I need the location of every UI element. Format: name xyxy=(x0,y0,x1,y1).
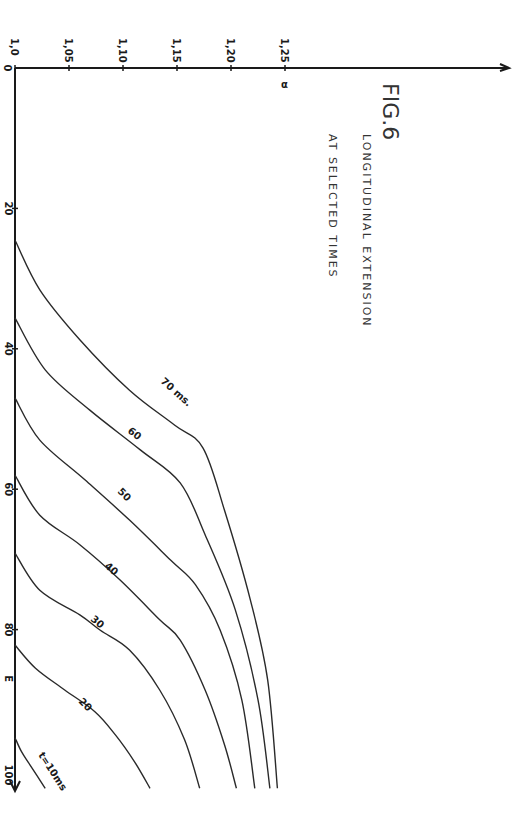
curve-label: 70 ms. xyxy=(159,375,194,408)
e-tick-label: 0 xyxy=(2,65,13,72)
e-tick-label: 60 xyxy=(3,482,14,496)
alpha-tick-label: 1,05 xyxy=(63,38,74,63)
curve-60-ms xyxy=(15,318,270,788)
alpha-tick-label: 1,25 xyxy=(279,38,290,63)
e-axis-label: E xyxy=(3,675,14,682)
figure-subtitle-line: LONGITUDINAL EXTENSION xyxy=(360,134,373,328)
e-tick-label: 80 xyxy=(3,623,14,637)
e-tick-label: 20 xyxy=(3,201,14,215)
e-tick-label: 40 xyxy=(3,342,14,356)
curves xyxy=(15,240,277,788)
curve-label: 30 xyxy=(89,613,107,630)
curve-70-ms xyxy=(15,240,277,788)
alpha-tick-label: 1,20 xyxy=(225,38,236,63)
curve-labels: t=10ms203040506070 ms. xyxy=(36,375,194,792)
curve-label: t=10ms xyxy=(36,750,69,792)
curve-label: 60 xyxy=(126,425,144,442)
curve-label: 50 xyxy=(116,486,134,504)
alpha-tick-label: 1,10 xyxy=(117,38,128,63)
alpha-tick-label: 1,15 xyxy=(171,38,182,63)
figure-title: FIG.6 xyxy=(378,83,403,140)
curve-label: 40 xyxy=(103,560,121,577)
figure-subtitle-line: AT SELECTED TIMES xyxy=(326,134,339,279)
curve-label: 20 xyxy=(77,696,95,714)
curve-50-ms xyxy=(15,398,255,788)
alpha-axis-label: α xyxy=(281,79,288,90)
curve-20-ms xyxy=(15,645,150,788)
alpha-tick-label: 1,0 xyxy=(9,38,20,56)
axes: 1,01,051,101,151,201,25α020406080100E xyxy=(2,38,509,791)
curve-t-10ms xyxy=(15,738,45,789)
figure-title-block: FIG.6LONGITUDINAL EXTENSIONAT SELECTED T… xyxy=(326,83,403,328)
curve-40-ms xyxy=(15,475,236,788)
fig6-chart: 1,01,051,101,151,201,25α020406080100E t=… xyxy=(0,0,527,817)
e-tick-label: 100 xyxy=(3,765,14,786)
